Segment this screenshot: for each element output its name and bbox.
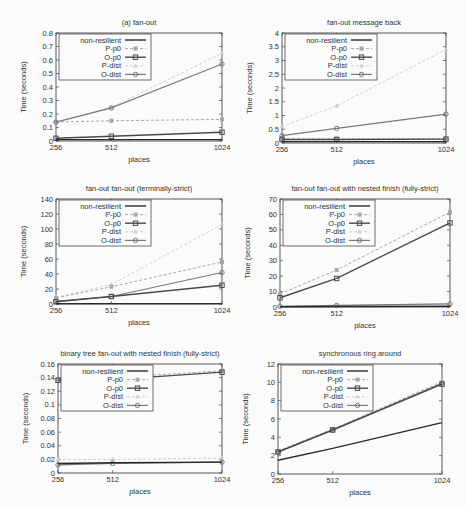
y-tick-label: 0.1 bbox=[43, 123, 53, 132]
y-axis-label: Time (seconds) bbox=[21, 392, 30, 444]
x-tick-label: 512 bbox=[106, 475, 119, 484]
legend-label: O-dist bbox=[325, 236, 346, 245]
y-tick-label: 0.5 bbox=[43, 69, 53, 78]
chart-fan-out-message-back: fan-out message backTime (seconds)places… bbox=[228, 0, 461, 169]
y-tick-label: 0.7 bbox=[43, 42, 53, 51]
y-tick-label: 4 bbox=[271, 433, 275, 442]
chart-title: fan-out message back bbox=[327, 18, 401, 27]
chart-svg: synchronous ring aroundTime (seconds)pla… bbox=[228, 337, 461, 506]
y-tick-label: 70 bbox=[269, 195, 277, 204]
y-tick-label: 4 bbox=[275, 29, 279, 38]
x-axis-label: places bbox=[353, 157, 375, 166]
chart-synchronous-ring-around: synchronous ring aroundTime (seconds)pla… bbox=[228, 337, 461, 506]
y-tick-label: 100 bbox=[40, 225, 53, 234]
y-tick-label: 60 bbox=[45, 255, 53, 264]
chart-title: fan-out fan-out with nested finish (full… bbox=[291, 184, 439, 193]
y-tick-label: 0.14 bbox=[40, 373, 55, 382]
x-axis-label: places bbox=[349, 488, 371, 497]
y-tick-label: 2 bbox=[271, 451, 275, 460]
x-tick-label: 512 bbox=[326, 476, 339, 485]
y-axis-label: Time (seconds) bbox=[241, 393, 250, 445]
series-o-dist bbox=[278, 302, 452, 309]
series-o-dist bbox=[280, 112, 448, 138]
y-tick-label: 20 bbox=[45, 285, 53, 294]
x-tick-label: 1024 bbox=[438, 145, 455, 154]
y-axis-label: Time (seconds) bbox=[243, 227, 252, 279]
y-tick-label: 6 bbox=[271, 415, 275, 424]
y-axis-label: Time (seconds) bbox=[245, 62, 254, 114]
series-non-resilient bbox=[58, 462, 222, 463]
chart-svg: (a) fan-outTime (seconds)places00.10.20.… bbox=[0, 0, 233, 169]
y-tick-label: 10 bbox=[267, 378, 275, 387]
legend: non-resilientP-p0O-p0P-distO-dist bbox=[281, 365, 373, 411]
chart-title: fan-out fan-out (terminally-strict) bbox=[86, 184, 193, 193]
y-tick-label: 8 bbox=[271, 396, 275, 405]
legend: non-resilientP-p0O-p0P-distO-dist bbox=[285, 34, 377, 80]
y-tick-label: 10 bbox=[269, 287, 277, 296]
y-tick-label: 40 bbox=[45, 270, 53, 279]
y-tick-label: 0.16 bbox=[40, 360, 55, 369]
x-axis-label: places bbox=[129, 487, 151, 496]
y-tick-label: 3.5 bbox=[269, 42, 279, 51]
y-tick-label: 1 bbox=[275, 111, 279, 120]
y-tick-label: 0.08 bbox=[40, 414, 55, 423]
y-tick-label: 60 bbox=[269, 210, 277, 219]
chart-fan-out-fan-out-terminally-strict: fan-out fan-out (terminally-strict)Time … bbox=[0, 168, 233, 337]
y-tick-label: 0.4 bbox=[43, 83, 53, 92]
x-tick-label: 256 bbox=[272, 476, 285, 485]
legend: non-resilientP-p0O-p0P-distO-dist bbox=[283, 200, 375, 246]
y-tick-label: 2 bbox=[275, 84, 279, 93]
y-tick-label: 0.12 bbox=[40, 387, 55, 396]
x-axis-label: places bbox=[128, 155, 150, 164]
series-p-dist bbox=[56, 455, 225, 461]
x-tick-label: 512 bbox=[105, 306, 118, 315]
y-axis-label: Time (seconds) bbox=[19, 225, 28, 277]
y-tick-label: 0.1 bbox=[45, 400, 55, 409]
chart-title: binary tree fan-out with nested finish (… bbox=[60, 349, 220, 358]
chart-fan-out-fan-out-nested-finish: fan-out fan-out with nested finish (full… bbox=[228, 168, 461, 337]
chart-svg: fan-out message backTime (seconds)places… bbox=[228, 0, 461, 169]
x-axis-label: places bbox=[128, 318, 150, 327]
y-tick-label: 0.02 bbox=[40, 455, 55, 464]
x-tick-label: 512 bbox=[105, 143, 118, 152]
x-tick-label: 256 bbox=[50, 306, 63, 315]
legend-label: O-dist bbox=[103, 401, 124, 410]
legend-label: O-dist bbox=[101, 236, 122, 245]
legend-label: O-dist bbox=[327, 70, 348, 79]
x-tick-label: 256 bbox=[50, 143, 63, 152]
y-tick-label: 120 bbox=[40, 210, 53, 219]
y-tick-label: 0.06 bbox=[40, 428, 55, 437]
y-tick-label: 0.6 bbox=[43, 56, 53, 65]
y-tick-label: 0.5 bbox=[269, 125, 279, 134]
y-tick-label: 2.5 bbox=[269, 70, 279, 79]
y-tick-label: 1.5 bbox=[269, 97, 279, 106]
series-p-p0 bbox=[54, 117, 224, 124]
y-tick-label: 50 bbox=[269, 225, 277, 234]
legend: non-resilientP-p0O-p0P-distO-dist bbox=[59, 34, 151, 80]
series-o-p0 bbox=[280, 137, 448, 142]
x-tick-label: 1024 bbox=[434, 476, 451, 485]
y-tick-label: 0.8 bbox=[43, 29, 53, 38]
legend: non-resilientP-p0O-p0P-distO-dist bbox=[61, 365, 153, 411]
x-tick-label: 256 bbox=[276, 145, 289, 154]
chart-svg: fan-out fan-out (terminally-strict)Time … bbox=[0, 168, 233, 337]
legend-label: O-dist bbox=[323, 401, 344, 410]
chart-title: synchronous ring around bbox=[319, 349, 402, 358]
y-tick-label: 80 bbox=[45, 240, 53, 249]
y-tick-label: 0.04 bbox=[40, 441, 55, 450]
x-tick-label: 512 bbox=[330, 309, 343, 318]
y-tick-label: 20 bbox=[269, 272, 277, 281]
x-axis-label: places bbox=[354, 321, 376, 330]
y-tick-label: 40 bbox=[269, 241, 277, 250]
legend-label: O-dist bbox=[101, 70, 122, 79]
x-tick-label: 1024 bbox=[442, 309, 459, 318]
y-tick-label: 0.3 bbox=[43, 96, 53, 105]
y-tick-label: 30 bbox=[269, 256, 277, 265]
x-tick-label: 256 bbox=[274, 309, 287, 318]
series-o-p0 bbox=[54, 283, 224, 304]
y-tick-label: 3 bbox=[275, 56, 279, 65]
y-tick-label: 140 bbox=[40, 195, 53, 204]
legend: non-resilientP-p0O-p0P-distO-dist bbox=[59, 200, 151, 246]
x-tick-label: 256 bbox=[52, 475, 65, 484]
chart-title: (a) fan-out bbox=[122, 18, 158, 27]
